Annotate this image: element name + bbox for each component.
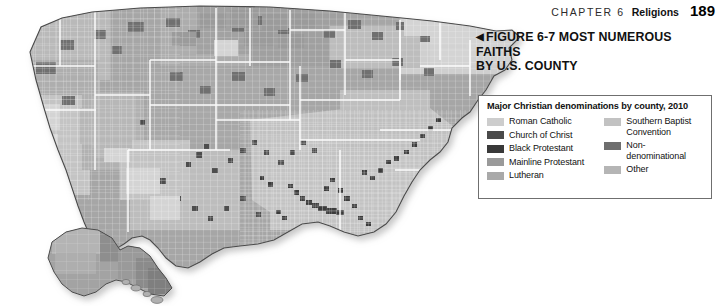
legend-label-lutheran: Lutheran [509, 170, 544, 181]
legend-item-church-of-christ: Church of Christ [487, 130, 594, 141]
legend-item-mainline-protestant: Mainline Protestant [487, 157, 594, 168]
legend-swatch-church-of-christ [487, 131, 504, 139]
legend-label-black-protestant: Black Protestant [509, 143, 573, 154]
legend-swatch-roman-catholic [487, 118, 504, 126]
legend-item-roman-catholic: Roman Catholic [487, 116, 594, 127]
legend-swatch-non-denominational [604, 142, 621, 150]
page-number: 189 [690, 2, 715, 19]
figure-caption-line2: BY U.S. COUNTY [476, 59, 578, 73]
legend-item-black-protestant: Black Protestant [487, 143, 594, 154]
legend-title: Major Christian denominations by county,… [487, 101, 704, 111]
legend-item-lutheran: Lutheran [487, 170, 594, 181]
legend-swatch-lutheran [487, 172, 504, 180]
legend-swatch-black-protestant [487, 145, 504, 153]
legend-column-left: Roman Catholic Church of Christ Black Pr… [487, 116, 594, 181]
legend-swatch-mainline-protestant [487, 158, 504, 166]
chapter-topic: Religions [632, 6, 679, 18]
map-legend: Major Christian denominations by county,… [478, 95, 712, 199]
legend-label-roman-catholic: Roman Catholic [509, 116, 572, 127]
legend-swatch-southern-baptist-convention [604, 118, 621, 126]
running-head: CHAPTER 6 Religions 189 [551, 2, 715, 19]
legend-column-right: Southern Baptist Convention Non-denomina… [604, 116, 704, 181]
left-triangle-icon: ◀ [476, 31, 484, 42]
legend-item-non-denominational: Non-denominational [604, 140, 704, 161]
legend-swatch-other [604, 166, 621, 174]
legend-label-church-of-christ: Church of Christ [509, 130, 572, 141]
chapter-label: CHAPTER 6 [551, 6, 624, 18]
legend-item-southern-baptist-convention: Southern Baptist Convention [604, 116, 704, 137]
figure-caption: ◀FIGURE 6-7 MOST NUMEROUS FAITHS BY U.S.… [476, 30, 714, 74]
legend-label-mainline-protestant: Mainline Protestant [509, 157, 584, 168]
figure-caption-line1: FIGURE 6-7 MOST NUMEROUS FAITHS [476, 30, 672, 59]
legend-columns: Roman Catholic Church of Christ Black Pr… [487, 116, 704, 181]
legend-item-other: Other [604, 164, 704, 175]
legend-label-southern-baptist-convention: Southern Baptist Convention [626, 116, 704, 137]
legend-label-non-denominational: Non-denominational [626, 140, 704, 161]
legend-label-other: Other [626, 164, 648, 175]
